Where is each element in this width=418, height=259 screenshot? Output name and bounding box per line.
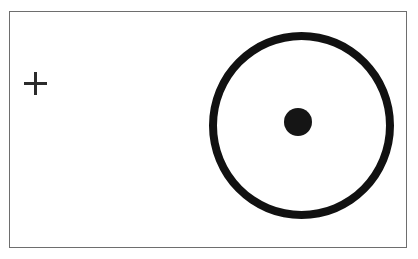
plus-marker-icon xyxy=(24,72,47,95)
figure-frame xyxy=(9,11,407,248)
center-dot-shape xyxy=(284,108,312,136)
figure-canvas xyxy=(0,0,418,259)
plus-vertical-bar xyxy=(34,72,37,95)
